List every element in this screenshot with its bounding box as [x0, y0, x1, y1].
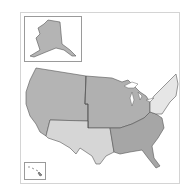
us-map [0, 0, 194, 195]
region-northeast[interactable] [150, 74, 178, 114]
region-hawaii[interactable] [28, 167, 42, 176]
region-alaska[interactable] [30, 20, 76, 57]
